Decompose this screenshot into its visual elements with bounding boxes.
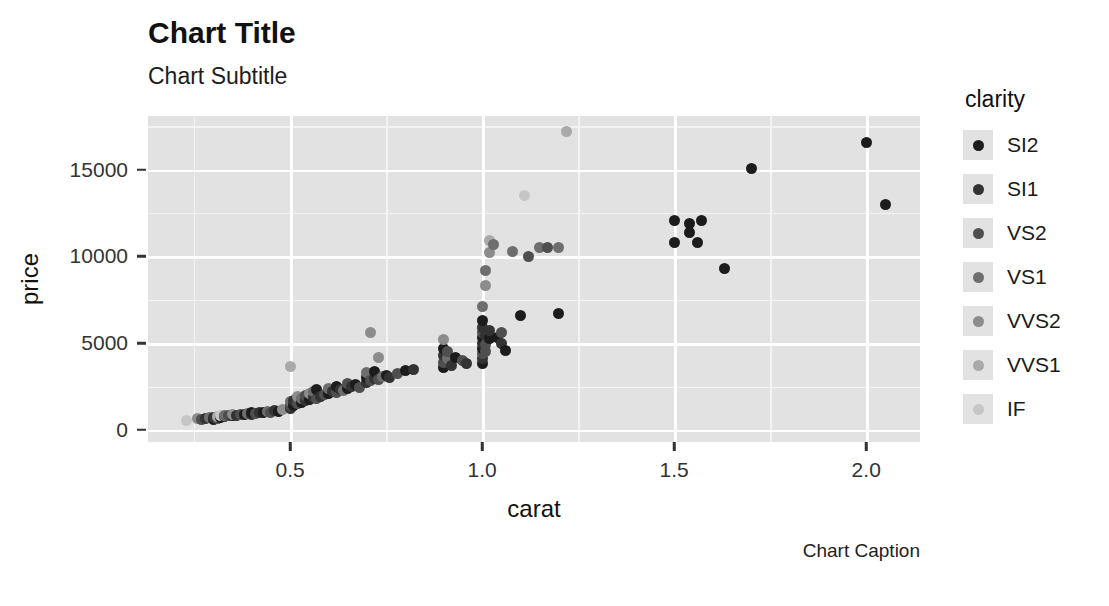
y-tick-label: 15000 <box>70 158 128 182</box>
x-tick-mark <box>673 442 676 451</box>
legend: clarity SI2SI1VS2VS1VVS2VVS1IF <box>963 86 1109 431</box>
scatter-point <box>488 239 499 250</box>
legend-item[interactable]: SI2 <box>963 123 1109 167</box>
x-tick-label: 0.5 <box>276 458 305 482</box>
scatter-point <box>515 310 526 321</box>
chart-caption: Chart Caption <box>0 540 920 562</box>
scatter-point <box>561 126 572 137</box>
legend-key <box>963 394 993 424</box>
x-tick-label: 2.0 <box>852 458 881 482</box>
scatter-point <box>523 251 534 262</box>
y-tick-mark <box>137 429 146 432</box>
legend-key <box>963 262 993 292</box>
chart-root: Chart Title Chart Subtitle price 0500010… <box>0 0 1109 606</box>
scatter-point <box>181 415 192 426</box>
scatter-point <box>507 246 518 257</box>
gridline-major-y <box>148 170 920 173</box>
legend-label: IF <box>1007 397 1026 421</box>
scatter-point <box>696 215 707 226</box>
x-tick-mark <box>289 442 292 451</box>
y-tick-mark <box>137 255 146 258</box>
legend-key <box>963 218 993 248</box>
gridline-minor-y <box>148 300 920 301</box>
scatter-point <box>500 345 511 356</box>
scatter-point <box>861 137 872 148</box>
scatter-point <box>373 352 384 363</box>
x-tick-label: 1.5 <box>660 458 689 482</box>
x-tick-label: 1.0 <box>468 458 497 482</box>
scatter-point <box>669 237 680 248</box>
legend-key <box>963 306 993 336</box>
chart-title: Chart Title <box>148 16 296 50</box>
legend-item[interactable]: VVS1 <box>963 343 1109 387</box>
legend-swatch-icon <box>973 360 984 371</box>
legend-label: SI2 <box>1007 133 1039 157</box>
gridline-minor-x <box>386 116 387 442</box>
gridline-major-x <box>482 116 485 442</box>
scatter-point <box>285 361 296 372</box>
gridline-major-y <box>148 343 920 346</box>
gridline-major-x <box>674 116 677 442</box>
scatter-point <box>496 327 507 338</box>
legend-label: VS1 <box>1007 265 1047 289</box>
scatter-point <box>519 190 530 201</box>
legend-swatch-icon <box>973 228 984 239</box>
chart-subtitle: Chart Subtitle <box>148 63 287 90</box>
legend-key <box>963 350 993 380</box>
legend-label: VS2 <box>1007 221 1047 245</box>
gridline-minor-y <box>148 126 920 127</box>
y-axis-ticks: 050001000015000 <box>0 0 128 606</box>
legend-item[interactable]: VVS2 <box>963 299 1109 343</box>
gridline-minor-x <box>770 116 771 442</box>
x-axis-title: carat <box>148 495 920 523</box>
y-tick-label: 0 <box>116 418 128 442</box>
scatter-point <box>669 215 680 226</box>
gridline-minor-y <box>148 387 920 388</box>
legend-label: SI1 <box>1007 177 1039 201</box>
scatter-point <box>684 218 695 229</box>
plot-panel <box>148 116 920 442</box>
y-tick-label: 10000 <box>70 244 128 268</box>
legend-item[interactable]: VS2 <box>963 211 1109 255</box>
scatter-point <box>542 242 553 253</box>
legend-key <box>963 174 993 204</box>
gridline-minor-x <box>578 116 579 442</box>
gridline-minor-y <box>148 213 920 214</box>
legend-label: VVS2 <box>1007 309 1061 333</box>
legend-swatch-icon <box>973 272 984 283</box>
gridline-major-y <box>148 430 920 433</box>
scatter-point <box>365 327 376 338</box>
gridline-major-y <box>148 256 920 259</box>
y-tick-label: 5000 <box>81 331 128 355</box>
scatter-point <box>408 364 419 375</box>
scatter-point <box>477 301 488 312</box>
y-tick-mark <box>137 342 146 345</box>
legend-swatch-icon <box>973 184 984 195</box>
y-tick-mark <box>137 169 146 172</box>
scatter-point <box>553 308 564 319</box>
legend-label: VVS1 <box>1007 353 1061 377</box>
x-tick-mark <box>865 442 868 451</box>
scatter-point <box>719 263 730 274</box>
scatter-point <box>880 199 891 210</box>
gridline-minor-x <box>194 116 195 442</box>
legend-swatch-icon <box>973 316 984 327</box>
scatter-point <box>746 163 757 174</box>
legend-items: SI2SI1VS2VS1VVS2VVS1IF <box>963 123 1109 431</box>
x-tick-mark <box>481 442 484 451</box>
legend-swatch-icon <box>973 404 984 415</box>
gridline-major-x <box>866 116 869 442</box>
legend-swatch-icon <box>973 140 984 151</box>
legend-key <box>963 130 993 160</box>
legend-item[interactable]: IF <box>963 387 1109 431</box>
scatter-point <box>461 358 472 369</box>
scatter-point <box>480 280 491 291</box>
scatter-point <box>477 315 488 326</box>
legend-item[interactable]: VS1 <box>963 255 1109 299</box>
scatter-point <box>480 265 491 276</box>
scatter-point <box>553 242 564 253</box>
legend-item[interactable]: SI1 <box>963 167 1109 211</box>
legend-title: clarity <box>965 86 1109 113</box>
scatter-point <box>692 237 703 248</box>
